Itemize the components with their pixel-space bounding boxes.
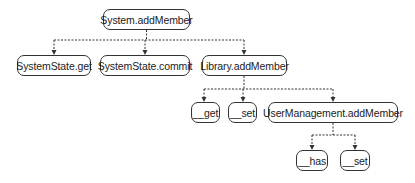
node-library-addmember: Library.addMember bbox=[202, 55, 287, 76]
node-set: __set bbox=[228, 102, 257, 123]
node-usermanagement-addmember: UserManagement.addMember bbox=[268, 102, 398, 123]
node-system-addmember: System.addMember bbox=[103, 9, 190, 30]
node-set-2: __set bbox=[340, 150, 370, 171]
node-get: __get bbox=[191, 102, 220, 123]
node-systemstate-commit: SystemState.commit bbox=[100, 55, 190, 76]
node-has: __has bbox=[296, 150, 328, 171]
node-systemstate-get: SystemState.get bbox=[17, 55, 91, 76]
